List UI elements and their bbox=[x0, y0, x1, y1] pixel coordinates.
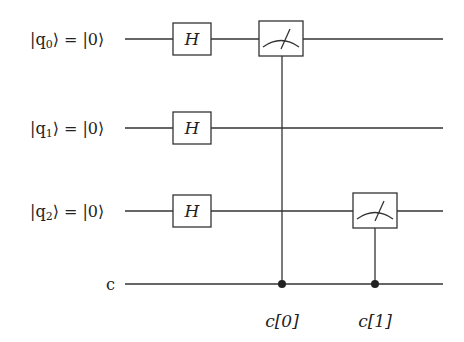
svg-text:H: H bbox=[184, 118, 201, 138]
classical-bit-label-1: c[1] bbox=[358, 311, 392, 331]
svg-text:H: H bbox=[184, 201, 201, 221]
measure-gate-q0 bbox=[259, 21, 303, 56]
h-gate-q2: H bbox=[173, 195, 211, 227]
classical-control-dot-1 bbox=[371, 280, 379, 288]
measure-gate-q2 bbox=[353, 193, 397, 228]
classical-bit-label-0: c[0] bbox=[265, 311, 299, 331]
h-gate-q0: H bbox=[173, 23, 211, 55]
qubit-label-q0: |q0⟩ = |0⟩ bbox=[30, 30, 104, 51]
h-gate-q1: H bbox=[173, 112, 211, 144]
qubit-label-q1: |q1⟩ = |0⟩ bbox=[30, 119, 104, 140]
classical-control-dot-0 bbox=[278, 280, 286, 288]
svg-text:H: H bbox=[184, 29, 201, 49]
classical-label: c bbox=[106, 275, 115, 294]
quantum-circuit: H H H |q0⟩ = |0⟩ |q1⟩ = |0⟩ |q2⟩ = |0⟩ c… bbox=[0, 0, 464, 342]
qubit-label-q2: |q2⟩ = |0⟩ bbox=[30, 202, 104, 223]
